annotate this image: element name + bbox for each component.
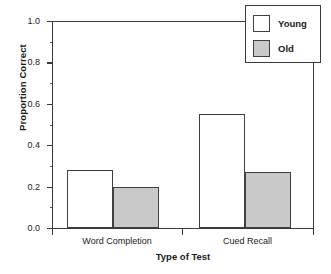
x-tick-left-edge [52, 229, 53, 235]
x-tick-group-divider [182, 229, 183, 235]
legend-row-young: Young [253, 12, 320, 34]
bar-old-word-completion [113, 187, 159, 228]
y-tick-label-0.4: 0.4 [16, 141, 40, 150]
caption-sliver [0, 266, 331, 274]
chart-legend: Young Old [245, 5, 321, 63]
y-tick-major-0.6 [47, 104, 52, 105]
y-tick-major-0.2 [47, 187, 52, 188]
y-axis-tick-labels: 1.0 0.8 0.6 0.4 0.2 0.0 [0, 0, 40, 274]
legend-row-old: Old [253, 37, 320, 59]
legend-label-young: Young [278, 18, 307, 29]
y-tick-minor-0.5 [50, 125, 53, 126]
y-tick-major-1.0 [47, 21, 52, 22]
y-axis-line [52, 21, 53, 229]
y-tick-major-0.4 [47, 145, 52, 146]
y-tick-minor-0.7 [50, 83, 53, 84]
x-axis-title: Type of Test [52, 251, 314, 262]
y-tick-minor-0.3 [50, 166, 53, 167]
y-tick-major-0.8 [47, 62, 52, 63]
y-tick-minor-0.9 [50, 42, 53, 43]
y-tick-label-0.8: 0.8 [16, 58, 40, 67]
x-tick-right-edge [313, 229, 314, 235]
legend-swatch-old-icon [253, 40, 270, 57]
legend-label-old: Old [278, 43, 294, 54]
y-tick-label-0.6: 0.6 [16, 100, 40, 109]
y-tick-label-0.0: 0.0 [16, 224, 40, 233]
legend-swatch-young-icon [253, 15, 270, 32]
bar-young-word-completion [67, 170, 113, 228]
y-tick-label-1.0: 1.0 [16, 17, 40, 26]
y-tick-minor-0.1 [50, 207, 53, 208]
bar-chart-figure: Proportion Correct 1.0 0.8 0.6 0.4 0.2 0… [0, 0, 331, 274]
x-tick-label-word-completion: Word Completion [47, 236, 187, 246]
bar-old-cued-recall [245, 172, 291, 228]
bar-young-cued-recall [199, 114, 245, 228]
y-tick-label-0.2: 0.2 [16, 183, 40, 192]
x-tick-label-cued-recall: Cued Recall [185, 236, 310, 246]
